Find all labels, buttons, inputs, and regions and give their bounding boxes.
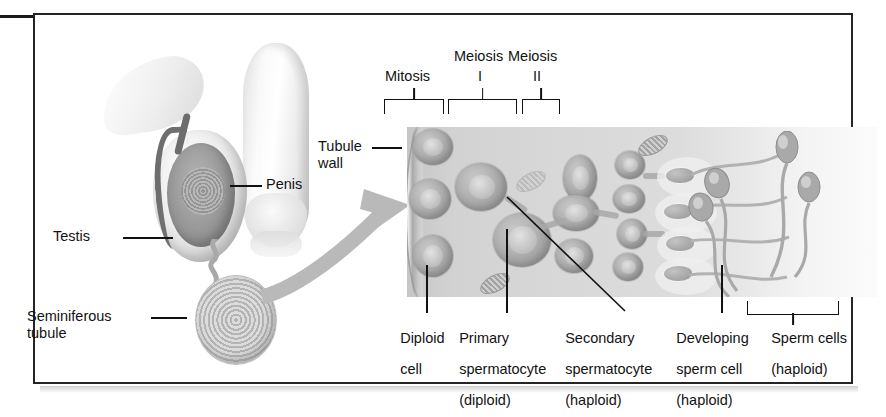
left-margin-rule bbox=[0, 15, 35, 18]
stage-label-meiosis-1-line2: I bbox=[478, 69, 482, 85]
diploid-cell bbox=[413, 235, 453, 277]
primary-spermatocyte bbox=[455, 163, 507, 211]
label-penis: Penis bbox=[266, 177, 302, 193]
sperm-cell bbox=[681, 191, 751, 297]
label-primary-spermatocyte: Primary spermatocyte (diploid) bbox=[435, 315, 546, 417]
stage-label-meiosis-1-line1: Meiosis bbox=[454, 49, 503, 65]
leader-secondary-spermatocyte bbox=[503, 193, 633, 315]
leader-diploid-cell bbox=[426, 265, 428, 313]
bracket-sperm-cells bbox=[747, 301, 839, 315]
label-seminiferous-tubule-line2: tubule bbox=[27, 326, 67, 342]
figure-page: Mitosis Meiosis I Meiosis II Penis Testi… bbox=[0, 0, 886, 417]
diploid-cell bbox=[409, 179, 451, 219]
leader-developing-sperm-cell bbox=[721, 265, 723, 313]
label-testis: Testis bbox=[53, 229, 90, 245]
stage-label-meiosis-2-line2: II bbox=[533, 69, 541, 85]
magnification-arrow bbox=[260, 175, 420, 305]
leader-penis bbox=[230, 185, 262, 187]
bracket-meiosis-2 bbox=[522, 99, 560, 114]
sperm-cell bbox=[783, 171, 843, 281]
label-seminiferous-tubule-line1: Seminiferous bbox=[27, 309, 112, 325]
label-developing-sperm-cell: Developing sperm cell (haploid) bbox=[652, 315, 749, 417]
diploid-cell bbox=[413, 129, 453, 165]
label-sperm-cells: Sperm cells (haploid) bbox=[747, 315, 847, 393]
bracket-meiosis-1 bbox=[448, 99, 517, 114]
thigh-shape bbox=[96, 52, 209, 138]
figure-frame: Mitosis Meiosis I Meiosis II Penis Testi… bbox=[33, 13, 853, 384]
bracket-mitosis bbox=[384, 99, 444, 114]
stage-label-mitosis: Mitosis bbox=[385, 69, 430, 85]
label-tubule-wall-line1: Tubule bbox=[318, 139, 362, 155]
leader-testis bbox=[123, 237, 173, 239]
leader-seminiferous-tubule bbox=[151, 317, 187, 319]
stage-label-meiosis-2-line1: Meiosis bbox=[508, 49, 557, 65]
magnified-tubule bbox=[407, 127, 877, 297]
label-tubule-wall-line2: wall bbox=[318, 156, 343, 172]
leader-tubule-wall bbox=[372, 147, 402, 149]
label-secondary-spermatocyte: Secondary spermatocyte (haploid) bbox=[541, 315, 652, 417]
